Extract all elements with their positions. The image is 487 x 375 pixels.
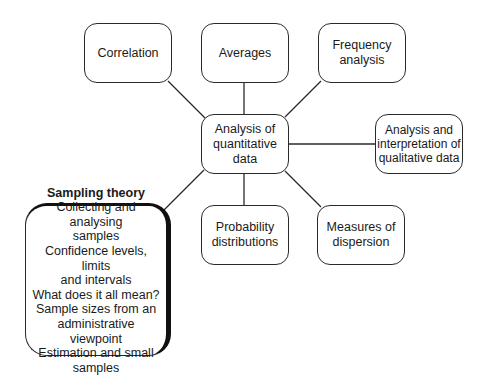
node-qualitative-data: Analysis and interpretation of qualitati… bbox=[375, 114, 463, 174]
node-label: Correlation bbox=[97, 46, 158, 61]
node-center-quantitative: Analysis of quantitative data bbox=[201, 114, 289, 174]
node-label: administrative viewpoint bbox=[30, 317, 162, 346]
node-frequency-analysis: Frequency analysis bbox=[318, 23, 406, 83]
node-label: Averages bbox=[219, 46, 272, 61]
node-label: analysis bbox=[339, 53, 384, 68]
node-label: qualitative data bbox=[379, 151, 460, 165]
node-label: Sample sizes from an bbox=[36, 302, 156, 317]
node-label: Analysis and bbox=[385, 123, 453, 137]
node-label: dispersion bbox=[333, 235, 390, 250]
node-correlation: Correlation bbox=[84, 23, 172, 83]
node-label: Analysis of bbox=[215, 122, 275, 137]
node-averages: Averages bbox=[201, 23, 289, 83]
node-label: Frequency bbox=[332, 38, 391, 53]
node-label: quantitative bbox=[213, 137, 277, 152]
node-label: What does it all mean? bbox=[32, 288, 159, 303]
node-label: interpretation of bbox=[377, 137, 460, 151]
node-label: and intervals bbox=[61, 273, 132, 288]
node-label: distributions bbox=[212, 235, 279, 250]
node-measures-of-dispersion: Measures of dispersion bbox=[317, 205, 405, 265]
node-probability-distributions: Probability distributions bbox=[201, 205, 289, 265]
node-label: samples bbox=[73, 361, 120, 375]
node-label: samples bbox=[73, 229, 120, 244]
node-title: Sampling theory bbox=[47, 186, 145, 201]
node-label: Measures of bbox=[327, 220, 396, 235]
node-label: Collecting and analysing bbox=[30, 200, 162, 229]
node-label: Estimation and small bbox=[38, 346, 153, 361]
node-sampling-theory: Sampling theory Collecting and analysing… bbox=[25, 203, 171, 356]
node-label: Confidence levels, limits bbox=[30, 244, 162, 273]
node-label: data bbox=[233, 152, 257, 167]
node-label: Probability bbox=[216, 220, 274, 235]
